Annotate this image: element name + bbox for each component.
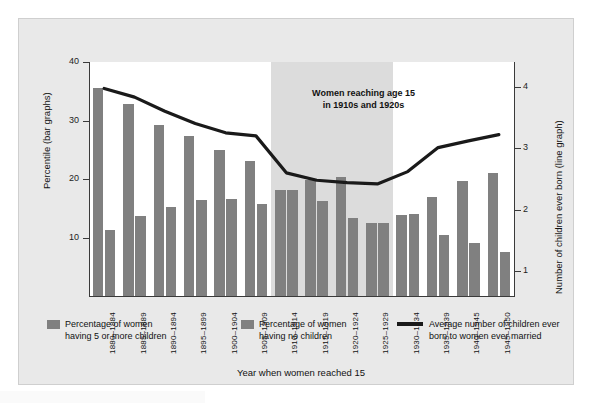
bar-no-children <box>378 223 389 296</box>
bar-no-children <box>469 243 480 296</box>
legend-label: Average number of children everborn to w… <box>429 319 559 342</box>
bar-five-or-more <box>366 223 377 296</box>
y-tick-label-left: 30 <box>57 115 79 125</box>
legend-label-line2: having no children <box>259 331 347 343</box>
legend-label: Percentage of womenhaving 5 or more chil… <box>65 319 167 342</box>
y-tick-right <box>515 210 521 211</box>
y-tick-left <box>83 179 89 180</box>
y-tick-label-right: 2 <box>523 204 537 214</box>
legend-label-line1: Percentage of women <box>259 319 347 331</box>
y-axis-right-label: Number of children ever born (line graph… <box>553 120 564 294</box>
bar-five-or-more <box>336 177 347 296</box>
bar-no-children <box>439 235 450 296</box>
bar-no-children <box>135 216 146 296</box>
figure-root: Percentile (bar graphs) Number of childr… <box>0 0 590 417</box>
bar-five-or-more <box>184 136 195 296</box>
bar-five-or-more <box>154 125 165 296</box>
legend-swatch-icon <box>47 320 60 329</box>
band-annotation-line1: Women reaching age 15 <box>281 87 446 99</box>
x-tick-label: 1930–1934 <box>412 312 421 354</box>
footer-strip <box>0 391 205 403</box>
y-tick-label-right: 3 <box>523 142 537 152</box>
bar-no-children <box>409 214 420 296</box>
y-tick-label-left: 20 <box>57 173 79 183</box>
x-tick-label: 1925–1929 <box>381 312 390 354</box>
chart-card: Percentile (bar graphs) Number of childr… <box>18 18 574 385</box>
y-tick-label-left: 10 <box>57 232 79 242</box>
y-tick-left <box>83 62 89 63</box>
legend-line-icon <box>397 322 423 326</box>
legend-label-line1: Average number of children ever <box>429 319 559 331</box>
x-axis-spine <box>89 296 515 297</box>
y-tick-label-left: 40 <box>57 56 79 66</box>
y-tick-left <box>83 121 89 122</box>
band-annotation-line2: in 1910s and 1920s <box>281 99 446 111</box>
y-tick-label-right: 4 <box>523 81 537 91</box>
bar-five-or-more <box>488 173 499 296</box>
bar-no-children <box>166 207 177 296</box>
bar-no-children <box>105 230 116 296</box>
bar-five-or-more <box>214 150 225 296</box>
legend-label-line1: Percentage of women <box>65 319 167 331</box>
bar-no-children <box>196 200 207 296</box>
y-tick-right <box>515 87 521 88</box>
y-tick-left <box>83 238 89 239</box>
bar-five-or-more <box>427 197 438 296</box>
legend-label: Percentage of womenhaving no children <box>259 319 347 342</box>
x-tick-label: 1890–1894 <box>169 312 178 354</box>
bar-no-children <box>500 252 511 296</box>
y-axis-right-spine <box>514 62 515 296</box>
x-axis-label: Year when women reached 15 <box>237 367 365 378</box>
bar-five-or-more <box>245 161 256 296</box>
bar-no-children <box>317 201 328 296</box>
x-tick-label: 1900–1904 <box>230 312 239 354</box>
y-tick-label-right: 1 <box>523 265 537 275</box>
bar-five-or-more <box>457 181 468 296</box>
y-axis-left-spine <box>89 62 90 296</box>
y-tick-right <box>515 148 521 149</box>
bar-no-children <box>226 199 237 296</box>
x-tick-label: 1920–1924 <box>351 312 360 354</box>
band-annotation: Women reaching age 15 in 1910s and 1920s <box>281 87 446 111</box>
legend-swatch-icon <box>241 320 254 329</box>
y-tick-right <box>515 271 521 272</box>
bar-no-children <box>257 204 268 296</box>
bar-five-or-more <box>305 180 316 296</box>
bar-five-or-more <box>123 104 134 296</box>
bar-no-children <box>287 190 298 296</box>
bar-no-children <box>348 218 359 296</box>
bar-five-or-more <box>275 190 286 296</box>
x-tick-label: 1895–1899 <box>199 312 208 354</box>
legend-label-line2: born to women ever married <box>429 331 559 343</box>
bar-five-or-more <box>396 215 407 296</box>
y-axis-left-label: Percentile (bar graphs) <box>41 92 52 189</box>
legend-label-line2: having 5 or more children <box>65 331 167 343</box>
bar-five-or-more <box>93 88 104 296</box>
